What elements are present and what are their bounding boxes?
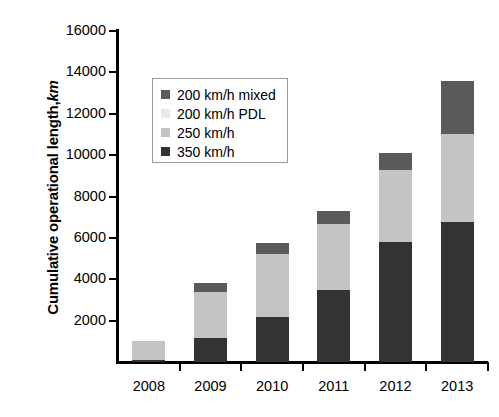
x-axis-tick-label: 2011 — [299, 378, 369, 394]
bar-segment — [441, 81, 474, 135]
bar-segment — [194, 283, 227, 291]
x-axis-tick-label: 2009 — [176, 378, 246, 394]
y-axis-tick — [109, 278, 117, 280]
bar-segment — [441, 134, 474, 222]
x-axis-tick-label: 2008 — [114, 378, 184, 394]
y-axis-tick — [109, 320, 117, 322]
y-axis-tick — [109, 196, 117, 198]
bar-segment — [132, 341, 165, 359]
legend-swatch-icon — [161, 90, 170, 99]
y-axis-tick — [109, 71, 117, 73]
bar-segment — [441, 222, 474, 362]
y-axis-tick-label: 10000 — [36, 146, 106, 162]
y-axis-tick — [109, 113, 117, 115]
y-axis-tick-label: 12000 — [36, 105, 106, 121]
y-axis-tick-label: 14000 — [36, 63, 106, 79]
bar-stack — [379, 31, 412, 362]
y-axis-tick-label: 6000 — [36, 229, 106, 245]
legend-swatch-icon — [161, 109, 170, 118]
y-axis-tick-label: 16000 — [36, 22, 106, 38]
legend-swatch-icon — [161, 147, 170, 156]
x-axis-tick — [425, 362, 427, 371]
bar-stack — [317, 31, 350, 362]
x-axis-tick — [240, 362, 242, 371]
legend-label: 200 km/h PDL — [177, 107, 266, 121]
bar-segment — [194, 338, 227, 362]
y-axis-tick-label: 4000 — [36, 270, 106, 286]
x-axis-tick-label: 2013 — [422, 378, 492, 394]
y-axis-tick — [109, 237, 117, 239]
legend-swatch-icon — [161, 128, 170, 137]
y-axis-tick — [109, 30, 117, 32]
bar-segment — [379, 242, 412, 362]
x-axis-tick — [179, 362, 181, 371]
x-axis-tick — [302, 362, 304, 371]
legend-item: 350 km/h — [161, 142, 287, 161]
bar-segment — [194, 292, 227, 339]
y-axis-tick-label: 2000 — [36, 312, 106, 328]
x-axis-tick-label: 2010 — [237, 378, 307, 394]
x-axis-tick — [487, 362, 489, 371]
bar-chart: Cumulative operational length,km 2000400… — [0, 0, 499, 417]
legend-item: 200 km/h mixed — [161, 85, 287, 104]
legend-label: 350 km/h — [177, 145, 235, 159]
bar-stack — [441, 31, 474, 362]
bar-segment — [132, 360, 165, 362]
chart-legend: 200 km/h mixed200 km/h PDL250 km/h350 km… — [152, 78, 288, 163]
bar-segment — [256, 243, 289, 254]
bar-segment — [379, 170, 412, 242]
y-axis-title-unit: km — [44, 80, 61, 101]
y-axis-tick — [109, 154, 117, 156]
bar-segment — [317, 224, 350, 289]
y-axis-tick-label: 8000 — [36, 188, 106, 204]
legend-item: 200 km/h PDL — [161, 104, 287, 123]
legend-item: 250 km/h — [161, 123, 287, 142]
legend-label: 200 km/h mixed — [177, 88, 276, 102]
bar-segment — [379, 153, 412, 170]
legend-label: 250 km/h — [177, 126, 235, 140]
bar-segment — [256, 317, 289, 363]
x-axis-tick-label: 2012 — [361, 378, 431, 394]
bar-segment — [317, 290, 350, 362]
bar-segment — [256, 254, 289, 316]
x-axis-tick — [364, 362, 366, 371]
bar-segment — [317, 211, 350, 224]
